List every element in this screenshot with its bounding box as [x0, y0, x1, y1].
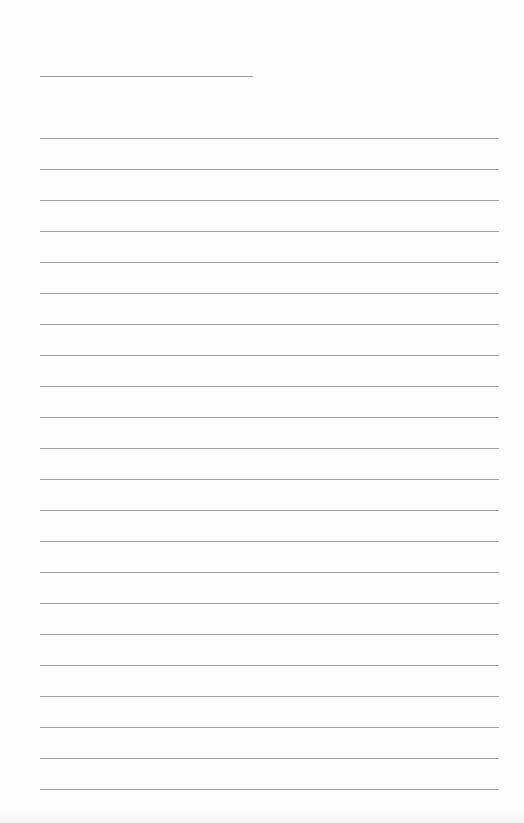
- lined-page: [0, 0, 524, 823]
- ruled-line: [40, 231, 499, 232]
- title-line: [40, 76, 253, 77]
- ruled-line: [40, 386, 499, 387]
- ruled-line: [40, 758, 499, 759]
- ruled-line: [40, 355, 499, 356]
- ruled-line: [40, 510, 499, 511]
- ruled-line: [40, 417, 499, 418]
- ruled-line: [40, 293, 499, 294]
- ruled-line: [40, 727, 499, 728]
- ruled-line: [40, 789, 499, 790]
- ruled-line: [40, 603, 499, 604]
- ruled-line: [40, 262, 499, 263]
- ruled-line: [40, 169, 499, 170]
- page-edge-shadow: [0, 809, 524, 823]
- ruled-line: [40, 696, 499, 697]
- ruled-line: [40, 138, 499, 139]
- ruled-line: [40, 324, 499, 325]
- ruled-line: [40, 665, 499, 666]
- ruled-line: [40, 448, 499, 449]
- ruled-line: [40, 572, 499, 573]
- ruled-line: [40, 541, 499, 542]
- ruled-line: [40, 479, 499, 480]
- ruled-line: [40, 634, 499, 635]
- ruled-line: [40, 200, 499, 201]
